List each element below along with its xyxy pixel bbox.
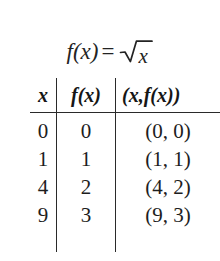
cell-x: 1 [30, 145, 56, 173]
title-radicand: x [138, 46, 147, 67]
table-row: 4 2 (4, 2) [0, 173, 220, 201]
cell-fx: 1 [57, 145, 115, 173]
table-row: 9 3 (9, 3) [0, 201, 220, 229]
table-row: 1 1 (1, 1) [0, 145, 220, 173]
table-row: 0 0 (0, 0) [0, 117, 220, 145]
cell-pair: (1, 1) [116, 145, 220, 173]
title-function-name: f(x) [67, 39, 99, 64]
cell-pair: (0, 0) [116, 117, 220, 145]
cell-x: 0 [30, 117, 56, 145]
cell-fx: 0 [57, 117, 115, 145]
column-header-x: x [30, 81, 56, 109]
cell-x: 4 [30, 173, 56, 201]
cell-fx: 2 [57, 173, 115, 201]
cell-x: 9 [30, 201, 56, 229]
figure-title: f(x)=x [0, 39, 220, 63]
cell-fx: 3 [57, 201, 115, 229]
title-equals-sign: = [101, 39, 114, 64]
function-value-table-figure: f(x)=x x f(x) (x,f(x)) 0 0 (0, 0) 1 1 (1… [0, 0, 220, 261]
header-divider [30, 112, 220, 113]
cell-pair: (9, 3) [116, 201, 220, 229]
column-header-fx: f(x) [57, 81, 115, 109]
value-table: x f(x) (x,f(x)) 0 0 (0, 0) 1 1 (1, 1) 4 … [0, 76, 220, 256]
column-header-pair: (x,f(x)) [116, 81, 220, 109]
square-root-icon: x [119, 39, 153, 63]
cell-pair: (4, 2) [116, 173, 220, 201]
